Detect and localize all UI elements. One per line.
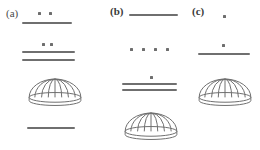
rule-lower-upper — [122, 83, 177, 85]
dot-single-top — [223, 14, 227, 19]
dot-marker — [154, 48, 157, 51]
rule-lower-lower — [122, 89, 177, 91]
panel-c: (c) — [190, 0, 260, 150]
rule-middle-lower — [22, 59, 75, 61]
dome-shape — [28, 78, 82, 106]
panel-label-b: (b) — [110, 6, 123, 17]
dot-marker — [222, 44, 225, 47]
rule-middle-upper — [22, 51, 75, 53]
dot-row-four — [130, 47, 170, 52]
panel-a: (a) — [0, 0, 110, 150]
rule-top — [129, 14, 178, 16]
dot-marker — [130, 48, 133, 51]
dot-marker — [142, 48, 145, 51]
dome-shape — [124, 112, 178, 140]
dot-single-middle — [222, 43, 226, 48]
dot-single-middle — [150, 75, 154, 80]
rule-bottom — [27, 127, 75, 129]
dot-marker — [223, 15, 226, 18]
dot-pair-middle — [42, 42, 54, 47]
rule-under-dot — [198, 53, 250, 55]
panel-label-c: (c) — [192, 6, 204, 17]
figure-panel-group: (a) (b) (c) — [0, 0, 260, 150]
dot-marker — [49, 12, 52, 15]
dot-marker — [50, 43, 53, 46]
dot-pair-top — [38, 11, 53, 16]
dot-marker — [42, 43, 45, 46]
rule-under-dot-pair — [22, 22, 72, 24]
dot-marker — [38, 12, 41, 15]
dot-marker — [166, 48, 169, 51]
dot-marker — [150, 76, 153, 79]
panel-label-a: (a) — [6, 8, 18, 19]
dome-shape — [198, 78, 252, 106]
panel-b: (b) — [110, 0, 190, 150]
